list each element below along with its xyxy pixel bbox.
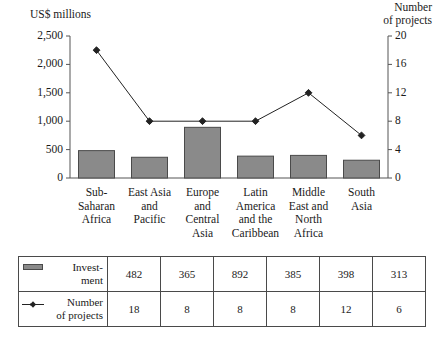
- table-cell-value: 398: [320, 257, 373, 292]
- left-axis-tick-label: 500: [14, 144, 63, 156]
- bar-investment: [238, 156, 274, 178]
- table-cell-value: 385: [267, 257, 320, 292]
- bar-investment: [132, 157, 168, 178]
- right-axis-tick-label: 0: [395, 172, 401, 184]
- right-axis-tick-label: 16: [395, 58, 407, 70]
- bar-investment: [291, 155, 327, 178]
- table-cell-value: 313: [373, 257, 426, 292]
- line-marker: [252, 118, 259, 125]
- chart-figure: US$ millions Number of projects 05001,00…: [0, 0, 440, 351]
- category-label: East Asia and Pacific: [123, 186, 176, 227]
- category-label: Sub- Saharan Africa: [70, 186, 123, 227]
- table-cell-value: 365: [161, 257, 214, 292]
- right-axis-tick-label: 8: [395, 115, 401, 127]
- category-axis-labels: Sub- Saharan AfricaEast Asia and Pacific…: [0, 186, 440, 248]
- data-table: Invest- ment482365892385398313Number of …: [18, 256, 426, 327]
- table-row: Invest- ment482365892385398313: [19, 257, 426, 292]
- category-label: Latin America and the Caribbean: [229, 186, 282, 240]
- table-cell-value: 12: [320, 292, 373, 327]
- line-marker: [199, 118, 206, 125]
- plot-svg: [0, 26, 440, 181]
- table-cell-value: 6: [373, 292, 426, 327]
- table-row-label-cell: Invest- ment: [19, 257, 108, 292]
- left-axis-tick-label: 1,000: [14, 115, 63, 127]
- table-cell-value: 482: [108, 257, 161, 292]
- right-axis-tick-label: 12: [395, 87, 407, 99]
- line-number-of-projects: [97, 50, 362, 135]
- category-label: Europe and Central Asia: [176, 186, 229, 240]
- right-axis-title: Number of projects: [383, 1, 432, 27]
- table-cell-value: 18: [108, 292, 161, 327]
- right-axis-tick-label: 4: [395, 144, 401, 156]
- table-row-label-cell: Number of projects: [19, 292, 108, 327]
- right-axis-tick-label: 20: [395, 30, 407, 42]
- left-axis-tick-label: 2,000: [14, 58, 63, 70]
- left-axis-tick-label: 0: [14, 172, 63, 184]
- left-axis-tick-label: 2,500: [14, 30, 63, 42]
- bar-investment: [344, 160, 380, 178]
- projects-line-swatch-icon: [22, 300, 44, 309]
- bar-investment: [185, 127, 221, 178]
- left-axis-tick-label: 1,500: [14, 87, 63, 99]
- table-cell-value: 8: [161, 292, 214, 327]
- category-label: South Asia: [335, 186, 388, 213]
- table-row: Number of projects18888126: [19, 292, 426, 327]
- investment-swatch-icon: [23, 264, 43, 270]
- plot-area: 05001,0001,5002,0002,500048121620: [0, 26, 440, 181]
- table-cell-value: 8: [214, 292, 267, 327]
- category-label: Middle East and North Africa: [282, 186, 335, 240]
- left-axis-title: US$ millions: [30, 8, 91, 21]
- table-cell-value: 892: [214, 257, 267, 292]
- table-cell-value: 8: [267, 292, 320, 327]
- bar-investment: [79, 151, 115, 178]
